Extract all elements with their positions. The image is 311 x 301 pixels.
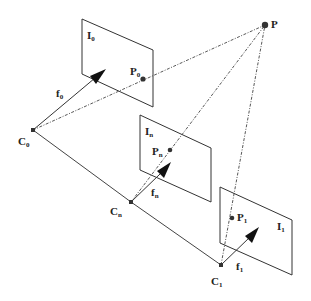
camera-center-cn: [129, 200, 133, 204]
camera-center-c0: [31, 128, 35, 132]
projection-p1: [230, 216, 235, 221]
projection-p0: [140, 76, 145, 81]
label-fn: fn: [151, 186, 159, 200]
multi-view-diagram: P I0 P0 f0 C0 In Pn fn Cn I1 P1 f1 C1: [0, 0, 311, 301]
camera-center-c1: [219, 263, 223, 267]
ray-c1-p: [221, 25, 265, 265]
ray-cn-p: [131, 25, 265, 202]
label-plane-1: I1: [277, 220, 285, 234]
image-plane-0: [82, 19, 153, 107]
point-p: [262, 22, 268, 28]
label-c1: C1: [211, 275, 223, 289]
label-pn: Pn: [152, 145, 163, 159]
label-f1: f1: [236, 260, 244, 274]
label-plane-0: I0: [87, 29, 95, 43]
camera-baseline: [33, 130, 221, 265]
label-p: P: [271, 18, 278, 30]
label-p1: P1: [237, 211, 248, 225]
label-f0: f0: [56, 87, 64, 101]
label-p0: P0: [130, 65, 141, 79]
projection-pn: [168, 148, 173, 153]
arrowhead-icon: [245, 227, 259, 243]
label-plane-n: In: [145, 125, 153, 139]
label-c0: C0: [18, 135, 30, 149]
focal-arrow-0: [33, 69, 106, 130]
ray-c0-p: [33, 25, 265, 130]
label-cn: Cn: [110, 205, 122, 219]
